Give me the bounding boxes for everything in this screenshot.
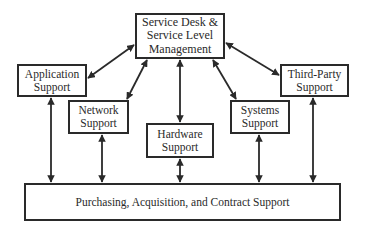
- arrow-sd-third-party: [226, 43, 279, 75]
- node-application-support: Application Support: [17, 64, 87, 97]
- node-label: Systems Support: [241, 104, 279, 130]
- node-service-desk: Service Desk & Service Level Management: [135, 13, 225, 59]
- node-label: Third-Party Support: [288, 68, 342, 94]
- arrow-sd-systems: [213, 60, 236, 99]
- node-systems-support: Systems Support: [230, 100, 290, 134]
- node-purchasing-support: Purchasing, Acquisition, and Contract Su…: [24, 183, 341, 221]
- node-network-support: Network Support: [68, 100, 129, 134]
- node-label: Hardware Support: [157, 128, 202, 154]
- node-label: Service Desk & Service Level Management: [142, 16, 218, 57]
- node-hardware-support: Hardware Support: [146, 123, 214, 158]
- node-third-party-support: Third-Party Support: [280, 64, 349, 97]
- node-label: Network Support: [78, 104, 118, 130]
- arrow-sd-application: [88, 45, 134, 78]
- node-label: Purchasing, Acquisition, and Contract Su…: [75, 196, 289, 209]
- node-label: Application Support: [25, 68, 79, 94]
- arrow-sd-network: [127, 60, 147, 99]
